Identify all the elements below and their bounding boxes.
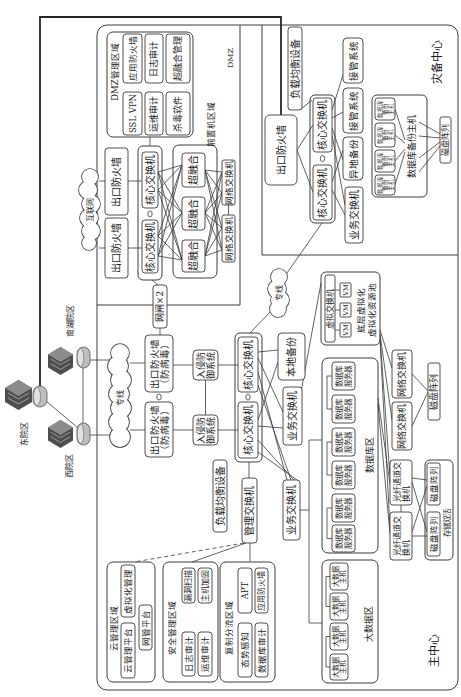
vuln-scan: 漏洞扫描 (182, 568, 195, 603)
device-label: APT (240, 581, 250, 600)
device-label: 业务交换机 (348, 190, 360, 240)
device-label: 网络交换机 (396, 352, 407, 397)
storage-network-switch-2: 网络交换机 (392, 402, 412, 450)
device-label: 数据库 (334, 464, 344, 486)
fc-switch-2: 光纤通道交 换机 (390, 512, 412, 560)
db-backup-host-1: 数据库 备份 主机 (375, 98, 395, 120)
site-nanhu-campus: 南湖院区 (48, 305, 90, 375)
device-label: 核心交换机 (144, 222, 156, 272)
bigdata-host-4: 大数据 主机 (330, 654, 348, 680)
device-label: 主机 (387, 179, 395, 191)
db-backup-host-2: 数据库 备份 主机 (375, 123, 395, 147)
device-label: 御系统 (205, 417, 216, 444)
device-label: 网络交换机 (224, 216, 234, 261)
dmz-mgmt-zone-label: DMZ管理区域 (110, 43, 120, 100)
server-cluster-icon (5, 380, 32, 410)
leased-line-cloud-main: 专线 (108, 344, 131, 447)
device-label: 御系统 (205, 352, 216, 379)
db-server-3: 数据库 服务器 (332, 428, 355, 456)
stack-link-icon (320, 156, 324, 162)
site-east-campus: 东院区 (5, 380, 47, 446)
device-label: 运维审计 (148, 96, 159, 132)
stack-link-icon (157, 394, 161, 400)
security-mgmt-zone-label: 安全管理区域 (167, 601, 177, 655)
bigdata-host-1: 大数据 主机 (330, 563, 348, 590)
device-label: 数据库 (334, 398, 344, 420)
router-icon-top (77, 349, 83, 367)
link-dashed (134, 543, 244, 562)
device-label: 服务器 (343, 527, 353, 549)
network-topology-diagram: 互联网 专线 专线 东院区 南湖院区 (0, 0, 461, 697)
db-server-6: 数据库 服务器 (332, 525, 355, 552)
av-egress-firewall-2: 出口防火墙 （防病毒） (145, 402, 173, 457)
device-label: 网络交换机 (224, 160, 234, 205)
device-label: 态势感知 (240, 632, 250, 668)
device-label: 云管理平台 (123, 628, 133, 673)
device-label: 核心交换机 (144, 155, 156, 205)
device-label: 主机 (387, 129, 395, 141)
device-label: 业务交换机 (286, 391, 298, 441)
device-label: 数据库 (334, 365, 344, 387)
dmz-network-switch-1: 网络交换机 (222, 160, 235, 205)
device-label: 磁盘阵列 (428, 374, 439, 410)
active-active-storage-label: 存储双活 (442, 508, 452, 537)
db-server-4: 数据库 服务器 (332, 461, 355, 489)
device-label: 服务器 (343, 365, 353, 387)
dmz-ssl-vpn: SSL VPN (123, 92, 142, 135)
device-label: 运维审计 (200, 636, 210, 672)
device-label: 主机 (338, 660, 347, 674)
device-label: 虚拟化管理 (123, 569, 133, 614)
server-cluster-icon (48, 347, 73, 375)
disk-array: 磁盘阵列 (428, 363, 440, 420)
link (258, 452, 297, 480)
bigdata-zone-label: 大数据区 (363, 606, 374, 642)
leased-line-cloud-dr: 专线 (268, 269, 289, 317)
device-label: 服务器 (343, 398, 353, 420)
device-label: SSL VPN (128, 93, 138, 133)
local-backup: 本地备份 (278, 333, 305, 380)
device-label: 出口防火墙 (110, 157, 122, 207)
dmz-label: DMZ (226, 47, 235, 68)
dr-disk-array: 磁盘阵列 (440, 117, 451, 163)
device-label: 出口防火墙 (110, 223, 122, 273)
bigdata-host-3: 大数据 主机 (330, 623, 348, 650)
situational-awareness: 态势感知 (238, 623, 252, 677)
log-audit: 日志审计 (182, 632, 195, 676)
device-label: 日志审计 (184, 636, 194, 672)
device-label: 网络交换机 (396, 404, 407, 449)
device-label: 服务器 (343, 464, 353, 486)
device-label: 接管系统 (348, 91, 359, 131)
dr-core-switch-2: 核心交换机 (313, 165, 332, 220)
dmz-core-switch-1: 核心交换机 (142, 152, 158, 208)
db-server-1: 数据库 服务器 (332, 362, 355, 390)
device-label: 应用防火墙 (256, 571, 266, 611)
device-label: 负载均衡设备 (214, 466, 226, 526)
server-cluster-icon (48, 420, 73, 448)
virtual-switch: 虚拟交换机 (325, 275, 336, 342)
stack-link-icon (246, 394, 250, 400)
site-label: 东院区 (19, 422, 29, 446)
site-label: 南湖院区 (65, 305, 75, 337)
dmz-core-switch-2: 核心交换机 (142, 220, 158, 273)
link (250, 310, 272, 333)
frontend-zone-label: 前置机区域 (206, 102, 216, 147)
device-label: VM (342, 304, 350, 317)
device-label: 主机 (338, 630, 347, 644)
ips-2: 入侵防 御系统 (193, 415, 218, 445)
dr-egress-firewall: 出口防火墙 (265, 115, 297, 185)
device-label: 主机 (338, 570, 347, 584)
bigdata-host-2: 大数据 主机 (330, 593, 348, 620)
device-label: 换机 (401, 486, 411, 502)
link (412, 374, 428, 391)
dmz-log-audit: 日志审计 (145, 34, 163, 83)
cloud-mgmt-zone-label: 云管理区域 (109, 606, 119, 651)
device-label: 虚拟交换机 (325, 289, 335, 329)
vm-2: VM (340, 303, 351, 317)
stack-link-icon (148, 211, 152, 217)
host-hardening: 主机加固 (198, 568, 212, 603)
leased-line-label: 专线 (274, 285, 284, 301)
device-label: 入侵防 (195, 417, 206, 444)
device-label: 光纤通道交 (392, 462, 402, 502)
device-label: 超融合 (187, 241, 199, 271)
virtualization-pool-label: 虚拟化资源池 (367, 283, 377, 337)
